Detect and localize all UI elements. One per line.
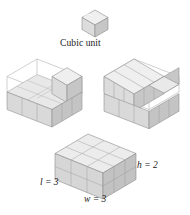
figure-artwork: [0, 0, 190, 215]
partially-filled-box-right: [104, 59, 179, 129]
partially-filled-box-left: [7, 59, 82, 127]
length-label: l = 3: [40, 177, 59, 187]
volume-unit-cubes-figure: Cubic unit l = 3 w = 3 h = 2: [0, 0, 190, 215]
completed-solid: [55, 134, 136, 199]
height-label: h = 2: [137, 160, 158, 170]
cubic-unit-cube: [82, 10, 108, 37]
width-label: w = 3: [84, 194, 106, 204]
cubic-unit-caption: Cubic unit: [60, 38, 101, 48]
